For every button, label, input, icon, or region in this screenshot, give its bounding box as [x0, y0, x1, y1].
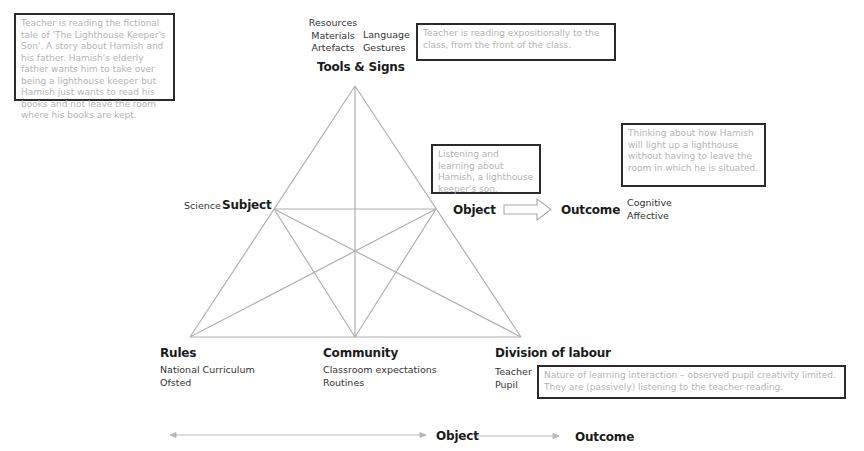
- note-object: Listening and learning about Hamish, a l…: [431, 144, 541, 194]
- outcome-item: Cognitive: [627, 197, 672, 210]
- node-rules: Rules: [160, 346, 196, 360]
- note-lesson-context: Teacher is reading the fictional tale of…: [14, 13, 175, 101]
- node-division-of-labour: Division of labour: [495, 346, 611, 360]
- note-tools-signs: Teacher is reading expositionally to the…: [416, 23, 616, 61]
- division-item: Teacher: [495, 366, 532, 379]
- tools-item: Artefacts: [297, 42, 369, 55]
- subject-community-line: [274, 209, 355, 337]
- rules-item: National Curriculum: [160, 364, 255, 377]
- node-tools-signs: Tools & Signs: [317, 60, 405, 74]
- object-outcome-arrow: [504, 199, 551, 220]
- community-item: Classroom expectations: [323, 364, 437, 377]
- rules-item: Ofsted: [160, 377, 255, 390]
- community-item: Routines: [323, 377, 437, 390]
- subject-division-line: [274, 209, 521, 337]
- division-items: Teacher Pupil: [495, 366, 532, 391]
- axis-outcome-label: Outcome: [575, 430, 634, 444]
- tools-item: Resources: [297, 17, 369, 30]
- tools-items-right: Language Gestures: [363, 29, 410, 54]
- node-community: Community: [323, 346, 398, 360]
- subject-prefix: Science: [184, 200, 221, 213]
- note-outcome: Thinking about how Hamish will light up …: [621, 123, 766, 187]
- rules-items: National Curriculum Ofsted: [160, 364, 255, 389]
- tools-item: Materials: [297, 30, 369, 43]
- tools-item: Gestures: [363, 42, 410, 55]
- object-rules-line: [190, 209, 436, 337]
- tools-items-left: Resources Materials Artefacts: [297, 17, 369, 55]
- object-community-line: [355, 209, 436, 337]
- division-item: Pupil: [495, 379, 532, 392]
- tools-item: Language: [363, 29, 410, 42]
- node-object: Object: [453, 203, 496, 217]
- community-items: Classroom expectations Routines: [323, 364, 437, 389]
- node-outcome: Outcome: [561, 203, 620, 217]
- axis-object-label: Object: [436, 429, 479, 443]
- outcome-item: Affective: [627, 210, 672, 223]
- outcome-items: Cognitive Affective: [627, 197, 672, 222]
- node-subject: Subject: [222, 198, 271, 212]
- note-division-of-labour: Nature of learning interaction – observe…: [537, 365, 846, 399]
- outer-right-edge: [355, 86, 521, 337]
